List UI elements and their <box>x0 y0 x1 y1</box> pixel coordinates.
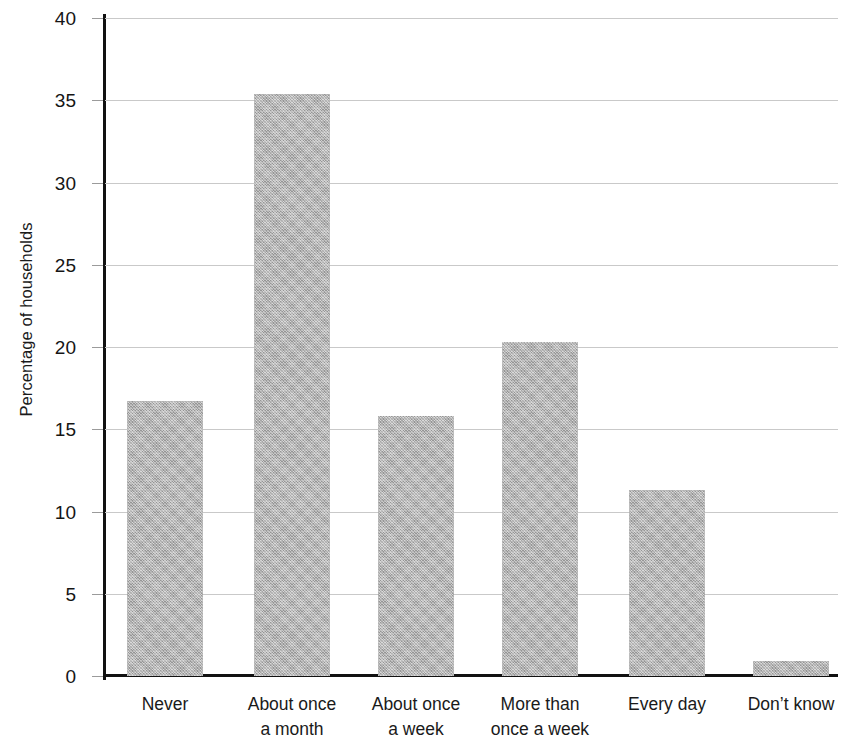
x-axis-tick-label-line: About once <box>350 692 482 717</box>
y-axis-tick-mark <box>92 18 103 19</box>
y-axis-tick-mark <box>92 100 103 101</box>
x-axis-tick-label-line: once a week <box>474 717 606 742</box>
y-axis-tick-mark <box>92 594 103 595</box>
y-axis-tick-mark <box>92 265 103 266</box>
x-axis-tick-label-line: a week <box>350 717 482 742</box>
x-axis-tick-label: Every day <box>601 692 733 717</box>
y-axis-tick-mark <box>92 512 103 513</box>
y-axis-tick-label: 15 <box>30 420 76 439</box>
x-axis-tick-label-line: About once <box>226 692 358 717</box>
y-axis-tick-label: 35 <box>30 91 76 110</box>
x-axis-tick-label: About oncea month <box>226 692 358 742</box>
bar <box>629 490 705 676</box>
y-axis-tick-mark <box>92 347 103 348</box>
x-axis-tick-label-line: Every day <box>601 692 733 717</box>
y-axis-tick-label: 25 <box>30 256 76 275</box>
x-axis-tick-label: Never <box>99 692 231 717</box>
y-axis-tick-mark <box>92 183 103 184</box>
y-axis-tick-label: 30 <box>30 174 76 193</box>
x-axis-tick-label: More thanonce a week <box>474 692 606 742</box>
y-axis-tick-mark <box>92 429 103 430</box>
x-axis-tick-label-line: Never <box>99 692 231 717</box>
bar <box>127 401 203 676</box>
bar <box>753 661 829 676</box>
y-axis-title: Percentage of households <box>17 190 36 450</box>
y-axis-tick-mark <box>92 676 103 677</box>
bar <box>378 416 454 676</box>
y-axis-tick-label: 10 <box>30 503 76 522</box>
y-axis-tick-label: 20 <box>30 338 76 357</box>
x-axis-tick-label-line: More than <box>474 692 606 717</box>
y-axis-tick-label: 40 <box>30 9 76 28</box>
x-axis-tick-label-line: Don’t know <box>725 692 846 717</box>
bar <box>502 342 578 676</box>
bar <box>254 94 330 676</box>
y-axis-tick-label: 0 <box>30 667 76 686</box>
x-axis-tick-label-line: a month <box>226 717 358 742</box>
x-axis-tick-label: Don’t know <box>725 692 846 717</box>
plot-area <box>105 18 838 676</box>
bar-chart: Percentage of households 051015202530354… <box>0 0 846 744</box>
y-axis-tick-label: 5 <box>30 585 76 604</box>
x-axis-tick-label: About oncea week <box>350 692 482 742</box>
